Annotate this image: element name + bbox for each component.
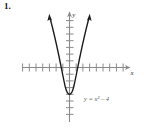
parabola-graph-figure: y x y = x² – 4: [0, 0, 144, 129]
x-axis-label: x: [130, 69, 135, 77]
figure-page: 1.: [0, 0, 144, 129]
y-axis-label: y: [71, 11, 76, 19]
equation-annotation: y = x² – 4: [83, 95, 110, 102]
parabola-right-arrowhead: [87, 14, 92, 21]
parabola-left-arrowhead: [47, 14, 52, 21]
